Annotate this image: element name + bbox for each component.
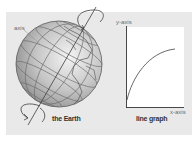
line-graph-caption: line graph [136,115,167,122]
rotation-arrow-bottom-icon [21,104,45,122]
x-axis-label: x-axis [170,109,186,115]
y-axis-label: y-axis [116,19,132,25]
earth-caption: the Earth [52,115,81,122]
axis-label: axis [14,25,25,31]
line-graph-icon [126,26,184,108]
rotation-arrow-top-icon [78,10,104,30]
